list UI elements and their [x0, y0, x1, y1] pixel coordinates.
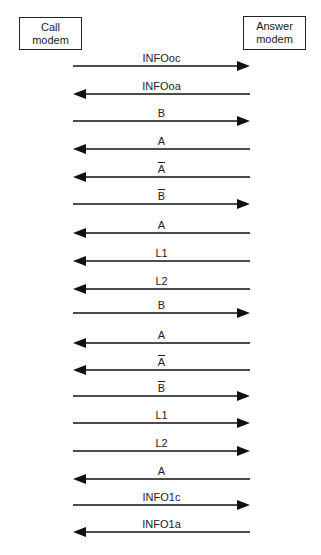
message-label-2: INFOoa	[73, 80, 250, 92]
message-label-8: L1	[73, 247, 250, 259]
message-label-7: A	[73, 219, 250, 231]
message-label-17: INFO1c	[73, 491, 250, 503]
message-label-10: B	[73, 299, 250, 311]
message-label-13: B	[73, 382, 250, 394]
message-label-12: A	[73, 356, 250, 368]
message-label-1: INFOoc	[73, 52, 250, 64]
message-label-11: A	[73, 329, 250, 341]
message-label-6: B	[73, 190, 250, 202]
message-label-15: L2	[73, 437, 250, 449]
message-label-5: A	[73, 163, 250, 175]
message-label-4: A	[73, 135, 250, 147]
message-label-18: INFO1a	[73, 518, 250, 530]
message-label-16: A	[73, 465, 250, 477]
message-label-14: L1	[73, 409, 250, 421]
message-label-9: L2	[73, 275, 250, 287]
message-label-3: B	[73, 107, 250, 119]
